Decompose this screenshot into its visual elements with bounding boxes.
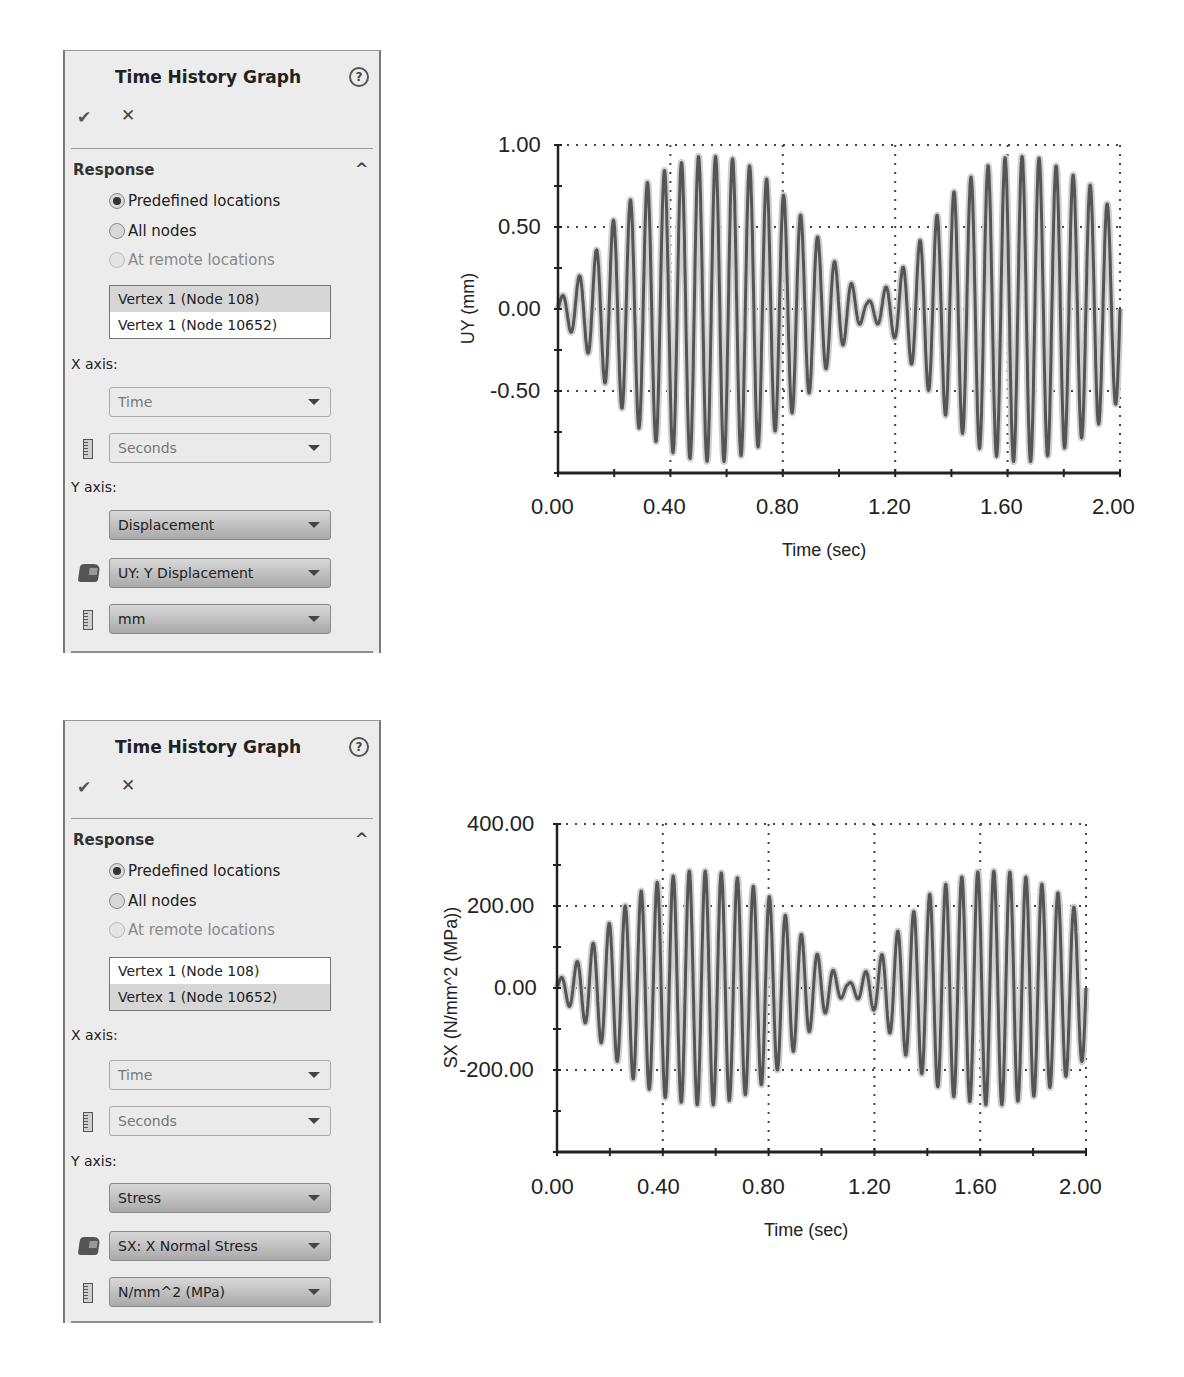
x-tick-label: 1.20 [848, 1174, 891, 1200]
x-axis-title: Time (sec) [764, 1220, 848, 1241]
y-tick-label: -200.00 [459, 1057, 534, 1083]
x-tick-label: 0.00 [531, 1174, 574, 1200]
x-tick-label: 1.60 [954, 1174, 997, 1200]
x-tick-label: 2.00 [1059, 1174, 1102, 1200]
x-tick-label: 0.80 [742, 1174, 785, 1200]
y-tick-label: 400.00 [467, 811, 534, 837]
sx-stress-chart: 400.00 200.00 0.00 -200.00 0.00 0.40 0.8… [0, 0, 1184, 1377]
y-tick-label: 0.00 [494, 975, 537, 1001]
y-tick-label: 200.00 [467, 893, 534, 919]
chart-plot-area [0, 0, 1184, 1377]
x-tick-label: 0.40 [637, 1174, 680, 1200]
y-axis-title: SX (N/mm^2 (MPa)) [441, 878, 462, 1098]
